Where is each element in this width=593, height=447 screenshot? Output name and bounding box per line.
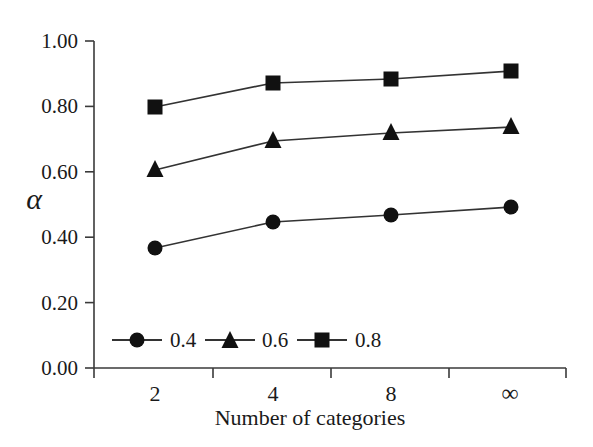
y-axis-ticks [85, 41, 94, 368]
legend-circle-icon [130, 333, 145, 348]
series-markers-0.4 [148, 200, 519, 256]
legend-label-0.4: 0.4 [170, 330, 196, 351]
y-tick-label-0.40: 0.40 [12, 227, 78, 248]
y-tick-label-0.60: 0.60 [12, 162, 78, 183]
x-axis-title: Number of categories [160, 406, 460, 430]
data-point-marker [148, 241, 163, 256]
series-line-0.4 [148, 200, 519, 256]
y-tick-label-1.00: 1.00 [12, 31, 78, 52]
data-point-marker [504, 64, 519, 79]
legend-sample-0.4 [112, 333, 162, 348]
y-tick-label-0.00: 0.00 [12, 358, 78, 379]
chart-figure: α 1.00 0.80 0.60 0.40 0.20 0.00 2 4 8 ∞ … [0, 0, 593, 447]
legend-sample-0.8 [297, 333, 347, 348]
series-line-0.8 [148, 64, 519, 115]
series-line-0.6 [147, 117, 520, 177]
data-point-marker [384, 208, 399, 223]
series-markers-0.6 [147, 117, 520, 177]
legend-label-0.6: 0.6 [262, 330, 288, 351]
data-point-marker [266, 215, 281, 230]
data-point-marker [383, 123, 400, 140]
data-point-marker [266, 76, 281, 91]
x-axis-ticks [94, 368, 566, 378]
legend-square-icon [315, 333, 330, 348]
x-tick-label-infinity: ∞ [480, 382, 540, 404]
data-point-marker [265, 131, 282, 148]
y-tick-label-0.80: 0.80 [12, 96, 78, 117]
data-point-marker [503, 117, 520, 134]
x-tick-label-4: 4 [243, 383, 303, 405]
legend-label-0.8: 0.8 [355, 330, 381, 351]
y-axis-label: α [14, 182, 54, 216]
data-point-marker [148, 100, 163, 115]
series-markers-0.8 [148, 64, 519, 115]
data-point-marker [384, 72, 399, 87]
x-tick-label-2: 2 [125, 383, 185, 405]
y-tick-label-0.20: 0.20 [12, 293, 78, 314]
data-point-marker [504, 200, 519, 215]
legend-sample-0.6 [205, 331, 255, 348]
x-tick-label-8: 8 [361, 383, 421, 405]
